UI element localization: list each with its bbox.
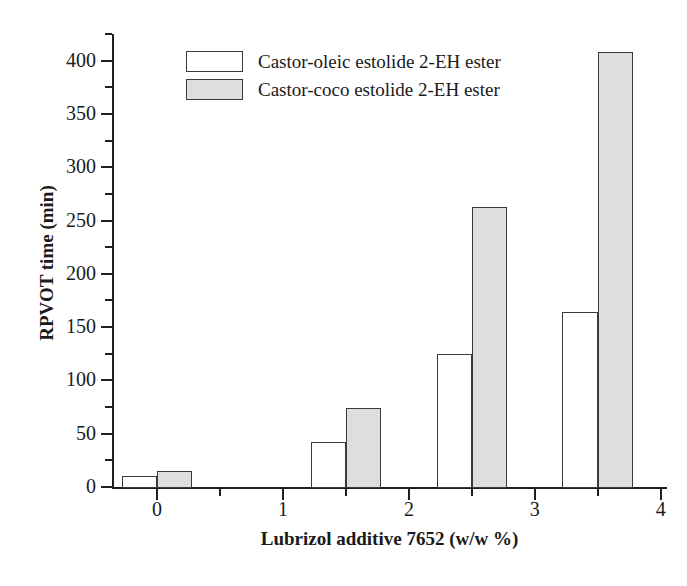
x-tick-minor — [219, 489, 221, 496]
x-axis-title: Lubrizol additive 7652 (w/w %) — [112, 528, 667, 550]
y-tick-major — [101, 326, 112, 328]
legend-label-series-b: Castor-coco estolide 2-EH ester — [258, 79, 500, 100]
legend-swatch-open-rectangle-icon — [186, 51, 243, 72]
bar-series-a-2 — [437, 354, 472, 488]
x-tick-label: 1 — [263, 498, 303, 520]
y-tick-minor — [105, 140, 112, 142]
x-tick-label: 0 — [137, 498, 177, 520]
y-tick-minor — [105, 246, 112, 248]
y-tick-major — [101, 166, 112, 168]
y-tick-minor — [105, 86, 112, 88]
chart-legend: Castor-oleic estolide 2-EH ester Castor-… — [186, 47, 501, 103]
bar-series-a-0 — [122, 476, 157, 488]
y-tick-minor — [105, 299, 112, 301]
bar-series-a-3 — [562, 312, 597, 488]
y-tick-label: 400 — [36, 50, 96, 70]
y-tick-minor — [105, 459, 112, 461]
legend-entry-series-a: Castor-oleic estolide 2-EH ester — [186, 47, 501, 75]
bar-series-a-1 — [311, 442, 346, 488]
bar-series-b-3 — [598, 52, 633, 488]
bar-series-b-2 — [472, 207, 507, 488]
y-tick-minor — [105, 193, 112, 195]
y-tick-major — [101, 379, 112, 381]
y-tick-minor — [105, 33, 112, 35]
y-tick-major — [101, 60, 112, 62]
x-tick-label: 2 — [389, 498, 429, 520]
y-axis-line — [112, 34, 114, 489]
x-tick-label: 4 — [641, 498, 681, 520]
y-tick-label: 0 — [36, 476, 96, 496]
y-tick-label: 50 — [36, 423, 96, 443]
y-tick-major — [101, 273, 112, 275]
rpvot-bar-chart-figure: 050100150200250300350400 01234 RPVOT tim… — [0, 0, 687, 586]
bar-series-b-0 — [157, 471, 192, 488]
legend-entry-series-b: Castor-coco estolide 2-EH ester — [186, 75, 501, 103]
y-axis-title: RPVOT time (min) — [36, 133, 58, 393]
x-tick-minor — [471, 489, 473, 496]
bar-series-b-1 — [346, 408, 381, 488]
y-tick-major — [101, 113, 112, 115]
x-tick-minor — [345, 489, 347, 496]
y-tick-major — [101, 486, 112, 488]
legend-label-series-a: Castor-oleic estolide 2-EH ester — [258, 51, 501, 72]
legend-swatch-filled-gray-rectangle-icon — [186, 79, 243, 100]
y-tick-major — [101, 220, 112, 222]
y-tick-minor — [105, 353, 112, 355]
y-tick-minor — [105, 406, 112, 408]
x-tick-label: 3 — [515, 498, 555, 520]
y-tick-major — [101, 433, 112, 435]
x-tick-minor — [597, 489, 599, 496]
y-tick-label: 350 — [36, 103, 96, 123]
